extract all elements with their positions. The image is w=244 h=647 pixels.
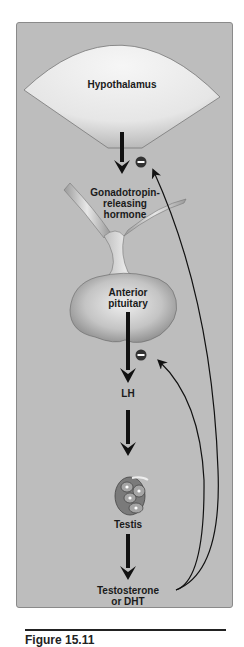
label-testosterone: Testosterone or DHT (88, 585, 168, 607)
arrow-lh-to-testis (120, 410, 136, 456)
label-hypothalamus: Hypothalamus (72, 79, 172, 90)
figure-caption: Figure 15.11 (25, 633, 94, 647)
inhibit-badge-pituitary (136, 350, 147, 361)
caption-divider (25, 629, 226, 631)
feedback-arrow-to-hypothalamus (154, 172, 218, 590)
arrow-testis-to-testosterone (120, 534, 136, 580)
feedback-arrow-to-pituitary (160, 362, 204, 590)
inhibit-badge-hypothalamus (136, 157, 147, 168)
label-gnrh: Gonadotropin- releasing hormone (80, 187, 170, 220)
label-testis: Testis (100, 519, 156, 530)
label-lh: LH (108, 388, 148, 399)
label-anterior-pituitary: Anterior pituitary (90, 287, 166, 309)
testis-illustration (115, 477, 148, 515)
